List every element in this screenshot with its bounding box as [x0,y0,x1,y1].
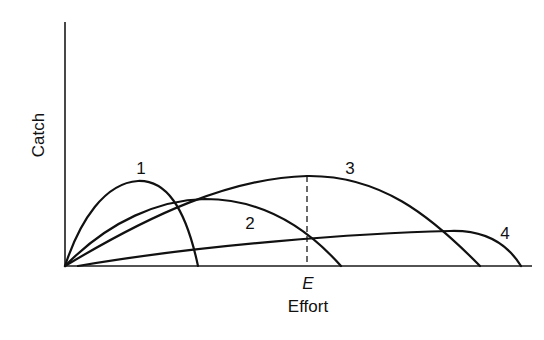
curve-3-label: 3 [345,159,354,178]
curve-2-label: 2 [245,214,254,233]
yield-effort-diagram: 1 2 3 4 E Effort Catch [0,0,544,340]
curve-4-label: 4 [500,224,509,243]
y-axis-title: Catch [29,113,48,157]
x-axis-title: Effort [288,297,329,316]
curve-2 [65,199,341,266]
effort-e-label: E [302,274,314,293]
curve-4 [78,231,521,266]
curve-3 [65,176,480,266]
curve-1-label: 1 [136,159,145,178]
